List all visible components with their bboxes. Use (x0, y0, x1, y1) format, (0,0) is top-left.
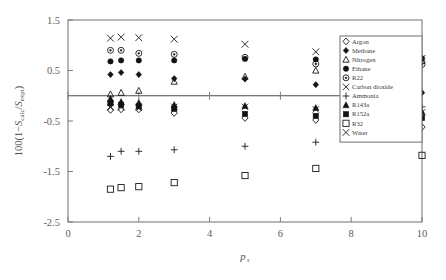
data-point (118, 58, 123, 63)
legend-label: Carbon dioxide (352, 83, 393, 90)
data-point (313, 165, 319, 171)
legend-item-r152a: R152a (343, 110, 369, 117)
data-point-center (110, 49, 112, 51)
legend-label: R152a (352, 110, 369, 117)
data-point (136, 184, 142, 190)
x-tick-label: 10 (417, 228, 428, 239)
data-point (135, 148, 142, 155)
data-point (118, 34, 125, 41)
chart-legend: ArgonMethaneNitrogenEthaneR22Carbon diox… (340, 36, 422, 142)
data-point (118, 148, 125, 155)
legend-label: Nitrogen (352, 56, 376, 63)
data-point-center (138, 52, 140, 54)
data-point (108, 71, 114, 77)
x-tick-label: 6 (278, 228, 283, 239)
legend-label: R32 (352, 120, 363, 127)
x-tick-label: 8 (349, 228, 354, 239)
legend-marker-icon (343, 66, 348, 71)
data-point (313, 113, 318, 118)
y-tick-label: 1.5 (47, 15, 60, 26)
y-tick-label: -0.5 (43, 116, 60, 127)
data-point-center (173, 53, 175, 55)
data-point-center (244, 56, 246, 58)
y-axis-title: 100(1−Scalc/Sexpt) (13, 85, 26, 156)
y-tick-label: -1.5 (43, 166, 60, 177)
x-tick-label: 2 (136, 228, 141, 239)
legend-label: R22 (352, 74, 363, 81)
y-tick-label: -2.5 (43, 217, 60, 228)
data-point (172, 58, 177, 63)
data-point (242, 41, 249, 48)
scatter-chart-figure: 1.50.5-0.5-1.5-2.50246810 100(1−Scalc/Se… (0, 0, 446, 280)
data-point (135, 34, 142, 41)
data-point (108, 59, 113, 64)
data-point (136, 71, 142, 77)
legend-label: Argon (352, 38, 369, 45)
data-point (118, 89, 124, 95)
data-point (242, 103, 248, 109)
data-point-center (120, 49, 122, 51)
legend-label: Ammonia (352, 92, 378, 99)
data-point (136, 104, 141, 109)
data-point (118, 102, 123, 107)
x-tick-label: 4 (207, 228, 213, 239)
data-point (242, 111, 247, 116)
legend-label: Water (352, 129, 368, 136)
data-point (108, 101, 113, 106)
y-tick-label: 0.5 (47, 65, 60, 76)
data-point (107, 35, 114, 42)
legend-label: R143a (352, 101, 369, 108)
legend-label: Ethane (352, 65, 370, 72)
data-point (171, 180, 177, 186)
data-point (242, 172, 248, 178)
data-point (172, 106, 177, 111)
data-point (313, 82, 319, 88)
legend-marker-icon-center (345, 77, 347, 79)
data-point (107, 153, 114, 160)
series-r32 (107, 152, 425, 192)
data-point (242, 143, 249, 150)
data-point (118, 69, 124, 75)
x-tick-label: 0 (65, 228, 70, 239)
data-point (312, 139, 319, 146)
data-point (313, 67, 319, 73)
legend-marker-icon (343, 112, 348, 117)
data-point (171, 36, 178, 43)
data-point (312, 48, 319, 55)
data-point (136, 58, 141, 63)
data-point (171, 146, 178, 153)
x-axis-title: p r (239, 251, 250, 264)
chart-svg: 1.50.5-0.5-1.5-2.50246810 100(1−Scalc/Se… (0, 0, 446, 280)
data-point-center (315, 63, 317, 65)
data-point (107, 186, 113, 192)
data-point (118, 185, 124, 191)
legend-label: Methane (352, 47, 375, 54)
